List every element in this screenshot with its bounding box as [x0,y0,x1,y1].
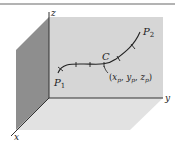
x-axis-label: x [14,132,19,142]
curve-label: C [102,51,110,62]
3d-curve-diagram: z y x C P1 P2 (xp, yp, zp) [0,0,183,147]
y-axis-label: y [164,93,171,103]
z-axis-label: z [50,8,56,18]
